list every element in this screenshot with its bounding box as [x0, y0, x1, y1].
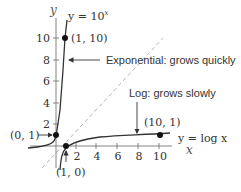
point-1-10 — [62, 35, 68, 41]
label-1-10: (1, 10) — [71, 32, 108, 45]
y-tick-label: 2 — [43, 118, 50, 131]
point-0-1 — [53, 132, 59, 138]
x-axis-label: x — [186, 143, 193, 157]
point-1-0 — [63, 143, 69, 149]
point-10-1 — [157, 132, 163, 138]
x-tick-label: 8 — [136, 150, 143, 163]
y-tick-label: 10 — [36, 32, 50, 45]
exp-annotation: Exponential: grows quickly — [106, 54, 236, 66]
label-10-1: (10, 1) — [144, 116, 181, 129]
y-axis-label: y — [49, 3, 57, 17]
x-tick-label: 4 — [94, 150, 101, 163]
graph: 10 8 6 4 2 2 4 6 8 10 y x (1, 10) (0, 1)… — [0, 0, 241, 192]
y-tick-label: 6 — [43, 75, 50, 88]
x-tick-label: 6 — [115, 150, 122, 163]
x-tick-label: 10 — [153, 150, 167, 163]
label-1-0: (1, 0) — [56, 166, 86, 179]
exp-curve-label: y = 10x — [67, 9, 108, 23]
log-annotation: Log: grows slowly — [129, 87, 216, 99]
x-tick-label: 2 — [74, 150, 81, 163]
y-tick-label: 8 — [43, 54, 50, 67]
log-curve-label: y = log x — [177, 132, 228, 145]
label-0-1: (0, 1) — [10, 129, 40, 142]
y-tick-label: 4 — [43, 97, 50, 110]
